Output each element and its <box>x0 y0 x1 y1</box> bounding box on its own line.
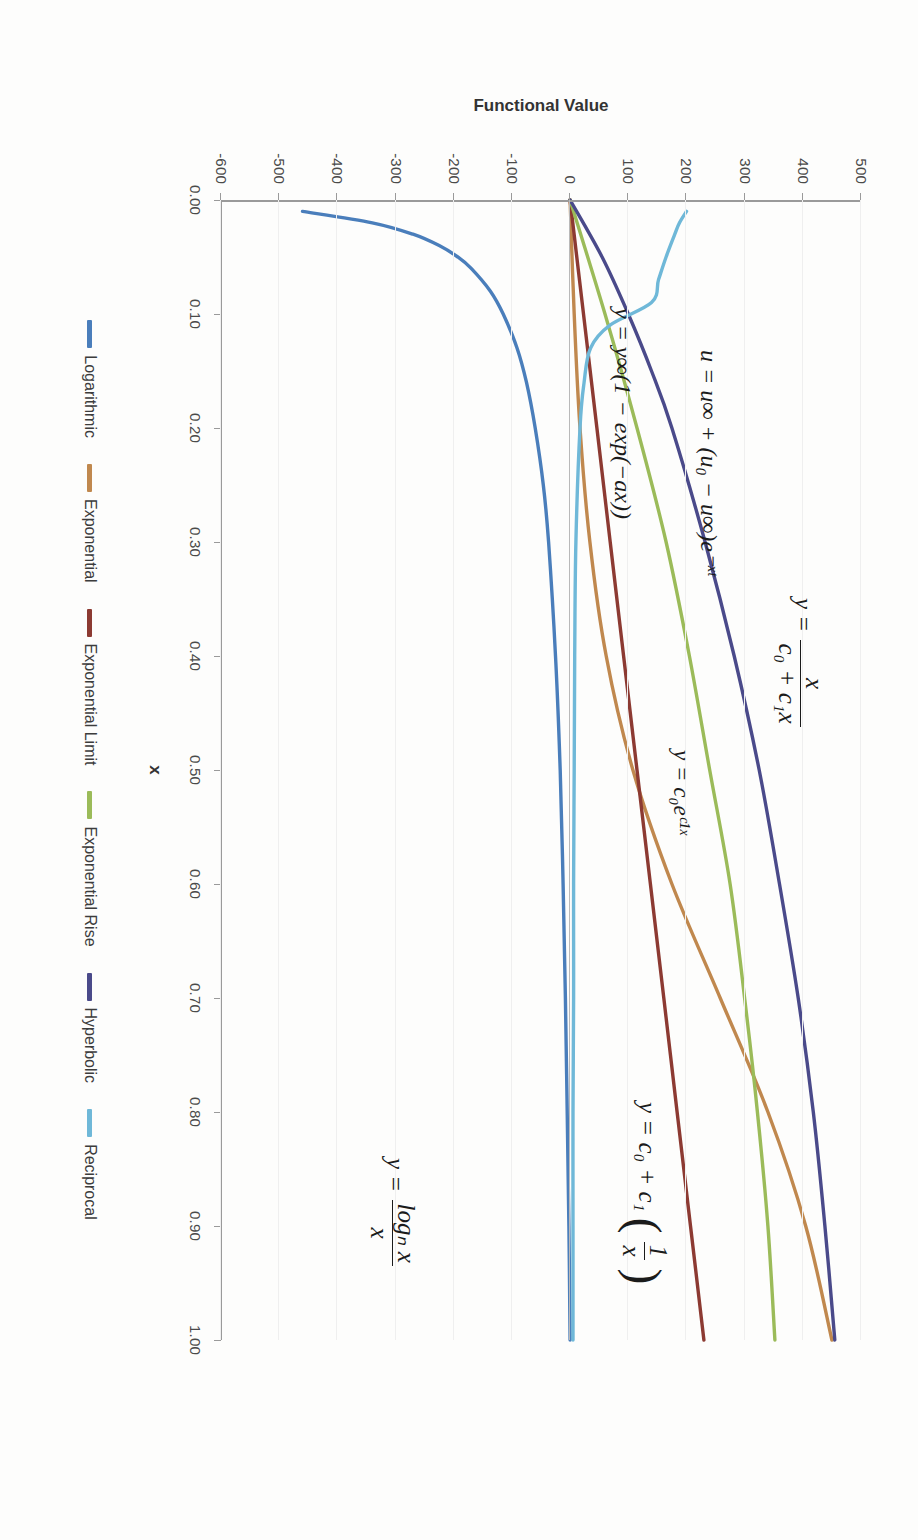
y-tick-mark <box>685 193 686 200</box>
legend-label: Logarithmic <box>81 355 99 438</box>
eq-logarithmic-denominator: x <box>366 1200 392 1265</box>
legend-swatch <box>88 320 93 348</box>
curve-layer <box>221 200 861 1340</box>
y-tick-mark <box>511 193 512 200</box>
x-tick-label: 0.90 <box>187 1211 204 1241</box>
y-axis-title: Functional Value <box>221 96 861 116</box>
chart-figure: 0.000.100.200.300.400.500.600.700.800.90… <box>29 50 889 1490</box>
legend-item-hyperbolic[interactable]: Hyperbolic <box>81 973 99 1084</box>
legend-item-exponential-rise[interactable]: Exponential Rise <box>81 791 99 946</box>
equation-reciprocal: y = c₀ + c₁ ( 1 x ) <box>618 1102 672 1284</box>
x-tick-mark <box>214 1340 221 1341</box>
x-tick-label: 0.80 <box>187 1097 204 1127</box>
eq-hyperbolic-denominator: c₀ + c₁x <box>774 640 800 726</box>
eq-reciprocal-numerator: 1 <box>644 1242 671 1261</box>
gridline <box>860 200 861 1340</box>
legend-item-exponential-limit[interactable]: Exponential Limit <box>81 609 99 766</box>
y-tick-label: 500 <box>853 158 870 184</box>
equation-exponential: y = c₀eᶜ¹ˣ <box>669 750 693 835</box>
x-tick-label: 0.00 <box>187 185 204 215</box>
y-tick-mark <box>278 193 279 200</box>
x-tick-label: 0.20 <box>187 413 204 443</box>
eq-reciprocal-lhs: y = c₀ + c₁ <box>634 1102 661 1211</box>
legend-item-reciprocal[interactable]: Reciprocal <box>81 1109 99 1220</box>
y-tick-label: -600 <box>213 153 230 184</box>
legend-swatch <box>88 791 93 819</box>
gridline <box>278 200 279 1340</box>
y-tick-label: 200 <box>678 158 695 184</box>
x-tick-label: 0.40 <box>187 641 204 671</box>
gridline <box>744 200 745 1340</box>
zero-line <box>569 200 570 1340</box>
x-tick-label: 0.60 <box>187 869 204 899</box>
y-axis-line <box>221 200 861 202</box>
x-axis-line <box>221 200 223 1340</box>
x-tick-label: 1.00 <box>187 1325 204 1355</box>
y-tick-label: 0 <box>562 175 579 184</box>
y-tick-label: -500 <box>271 153 288 184</box>
y-tick-label: 400 <box>794 158 811 184</box>
chart-legend: LogarithmicExponentialExponential LimitE… <box>81 200 99 1340</box>
y-tick-label: -200 <box>445 153 462 184</box>
y-tick-mark <box>860 193 861 200</box>
legend-label: Exponential Limit <box>81 644 99 766</box>
y-tick-mark <box>395 193 396 200</box>
x-tick-label: 0.30 <box>187 527 204 557</box>
legend-swatch <box>88 464 93 492</box>
legend-label: Hyperbolic <box>81 1008 99 1084</box>
legend-swatch <box>88 609 93 637</box>
x-axis-title: x <box>145 200 165 1340</box>
y-tick-label: -400 <box>329 153 346 184</box>
y-tick-label: -100 <box>503 153 520 184</box>
equation-logarithmic: y = logₙ x x <box>366 1158 420 1268</box>
y-tick-mark <box>802 193 803 200</box>
curve-logarithmic <box>303 211 571 1340</box>
gridline <box>511 200 512 1340</box>
y-tick-mark <box>220 193 221 200</box>
x-tick-label: 0.70 <box>187 983 204 1013</box>
gridline <box>336 200 337 1340</box>
equation-exponential-rise: u = u∞ + (u₀ − u∞)e⁻ˣᵗ <box>696 350 721 576</box>
legend-label: Exponential Rise <box>81 826 99 946</box>
gridline <box>802 200 803 1340</box>
eq-hyperbolic-numerator: x <box>800 640 827 726</box>
y-tick-mark <box>336 193 337 200</box>
gridline <box>220 200 221 1340</box>
y-tick-mark <box>627 193 628 200</box>
eq-hyperbolic-lhs: y = <box>790 598 817 632</box>
y-tick-mark <box>744 193 745 200</box>
y-tick-mark <box>569 193 570 200</box>
plot-area: 0.000.100.200.300.400.500.600.700.800.90… <box>221 200 861 1340</box>
legend-label: Reciprocal <box>81 1144 99 1220</box>
y-tick-mark <box>453 193 454 200</box>
legend-item-exponential[interactable]: Exponential <box>81 464 99 583</box>
eq-exponential-rise-text: u = u∞ + (u₀ − u∞)e⁻ˣᵗ <box>696 350 722 576</box>
gridline <box>453 200 454 1340</box>
legend-swatch <box>88 1109 93 1137</box>
legend-label: Exponential <box>81 499 99 583</box>
eq-reciprocal-denominator: x <box>618 1242 644 1261</box>
y-tick-label: 100 <box>620 158 637 184</box>
eq-exponential-text: y = c₀eᶜ¹ˣ <box>669 750 694 835</box>
legend-item-logarithmic[interactable]: Logarithmic <box>81 320 99 438</box>
legend-swatch <box>88 973 93 1001</box>
y-tick-label: -300 <box>387 153 404 184</box>
x-tick-label: 0.50 <box>187 755 204 785</box>
y-tick-label: 300 <box>736 158 753 184</box>
eq-exponential-limit-text: y = y∞(1 − exp(−ax)) <box>610 308 636 519</box>
eq-logarithmic-lhs: y = <box>382 1158 409 1192</box>
x-tick-label: 0.10 <box>187 299 204 329</box>
eq-logarithmic-numerator: logₙ x <box>392 1200 419 1265</box>
equation-hyperbolic: y = x c₀ + c₁x <box>774 598 828 729</box>
equation-exponential-limit: y = y∞(1 − exp(−ax)) <box>610 308 635 519</box>
